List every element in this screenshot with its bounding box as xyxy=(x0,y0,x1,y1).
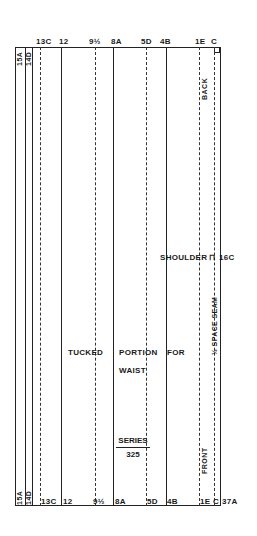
top-label-8a: 8A xyxy=(111,37,122,46)
bottom-label-c: C xyxy=(213,497,219,506)
left-label-15a-bottom: 15A xyxy=(16,491,23,505)
bottom-label-37a: 37A xyxy=(222,497,238,506)
line-12 xyxy=(61,47,62,506)
top-label-9-half: 9½ xyxy=(89,37,101,46)
shoulder-ref-label: 16C xyxy=(219,253,235,262)
top-label-13c: 13C xyxy=(36,37,52,46)
series-number: 325 xyxy=(116,450,150,459)
instruction-portion: PORTION xyxy=(119,348,158,357)
instruction-for: FOR xyxy=(167,348,185,357)
bottom-label-12: 12 xyxy=(63,497,73,506)
bottom-label-4b: 4B xyxy=(167,497,178,506)
line-14d xyxy=(32,47,33,506)
top-label-4b: 4B xyxy=(160,37,171,46)
top-label-1e: 1E xyxy=(195,37,205,46)
shoulder-marker-icon: ⊓ xyxy=(209,253,215,262)
bottom-label-13c: 13C xyxy=(41,497,57,506)
front-label: FRONT xyxy=(201,447,208,474)
seam-label: ½ SPACE SEAM xyxy=(211,297,218,355)
line-c xyxy=(214,47,215,506)
left-label-14d-bottom: 14D xyxy=(25,491,32,505)
bottom-label-1e: 1E xyxy=(200,497,210,506)
instruction-waist: WAIST xyxy=(119,366,146,375)
series-block: SERIES 325 xyxy=(116,436,150,459)
left-label-14d-top: 14D xyxy=(25,52,32,66)
bottom-label-8a: 8A xyxy=(115,497,126,506)
series-label: SERIES xyxy=(116,436,150,445)
top-label-c: C xyxy=(211,37,217,46)
bottom-label-9-half: 9½ xyxy=(93,497,105,506)
top-label-12: 12 xyxy=(59,37,69,46)
instruction-tucked: TUCKED xyxy=(68,348,103,357)
line-4b xyxy=(166,47,167,506)
back-label: BACK xyxy=(201,78,208,100)
bottom-label-5d: 5D xyxy=(147,497,158,506)
line-9-half xyxy=(95,47,96,506)
shoulder-label: SHOULDER xyxy=(160,253,207,262)
top-label-5d: 5D xyxy=(141,37,152,46)
series-rule xyxy=(116,447,150,448)
line-1e xyxy=(199,47,200,506)
line-13c xyxy=(40,47,41,506)
left-label-15a-top: 15A xyxy=(16,52,23,66)
line-15a xyxy=(25,47,26,506)
line-8a xyxy=(113,47,114,506)
